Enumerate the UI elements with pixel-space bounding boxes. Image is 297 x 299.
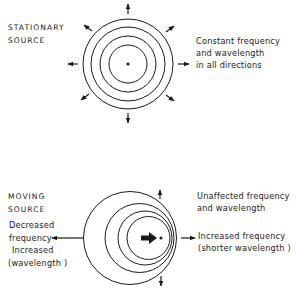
stationary-title: STATIONARY SOURCE	[8, 22, 65, 47]
arrow-down-right-icon	[166, 95, 174, 101]
moving-source-dot	[160, 237, 163, 240]
moving-front-note: Increased frequency (shorter wavelength …	[198, 231, 291, 254]
moving-title: MOVING SOURCE	[8, 191, 45, 216]
arrow-up-right-icon	[166, 26, 174, 32]
motion-arrow-icon	[141, 232, 157, 244]
moving-rear-note: Decreased frequency Increased (wavelengt…	[9, 219, 67, 269]
moving-wavefronts	[84, 192, 177, 285]
stationary-source-dot	[126, 62, 129, 65]
moving-side-note: Unaffected frequency and wavelength	[197, 191, 290, 214]
stationary-note: Constant frequency and wavelength in all…	[196, 35, 280, 71]
arrow-down-left-icon	[81, 94, 89, 100]
arrow-up-left-icon	[84, 25, 92, 31]
